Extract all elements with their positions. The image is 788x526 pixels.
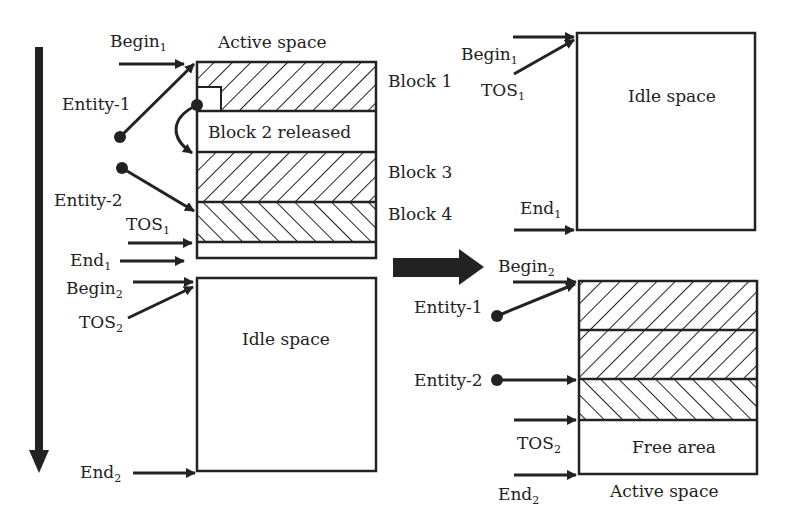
right-idle-space: Idle space bbox=[577, 33, 755, 230]
left-idle-space: Idle space bbox=[197, 278, 376, 471]
right-block-4 bbox=[579, 379, 757, 420]
right-begin2-label: Begin2 bbox=[498, 256, 555, 279]
right-tos1-label: TOS1 bbox=[481, 80, 525, 103]
right-tos2-label: TOS2 bbox=[517, 433, 561, 456]
block-3-label: Block 3 bbox=[388, 162, 452, 182]
left-begin2-label: Begin2 bbox=[66, 278, 123, 301]
left-active-space-label: Active space bbox=[217, 32, 326, 52]
left-end2-label: End2 bbox=[80, 462, 121, 485]
right-block-1 bbox=[579, 281, 757, 330]
right-active-space: Free area Active space bbox=[579, 281, 757, 501]
right-active-label: Active space bbox=[609, 481, 718, 501]
right-block-3 bbox=[579, 330, 757, 379]
left-active-space: Active space Block 2 released Block 1 Bl… bbox=[197, 32, 452, 258]
left-pointers: Begin1 Entity-1 Entity-2 TOS1 End1 Begin… bbox=[54, 31, 203, 485]
right-entity1-label: Entity-1 bbox=[414, 297, 483, 317]
block-1-label: Block 1 bbox=[388, 71, 452, 91]
memory-compaction-diagram: Active space Block 2 released Block 1 Bl… bbox=[0, 0, 788, 526]
time-axis-arrow bbox=[29, 47, 49, 473]
block-4 bbox=[197, 202, 376, 242]
left-tos1-label: TOS1 bbox=[126, 214, 170, 237]
left-entity1-label: Entity-1 bbox=[62, 94, 131, 114]
left-entity2-label: Entity-2 bbox=[54, 190, 123, 210]
block-2-label: Block 2 released bbox=[208, 122, 351, 142]
transition-arrow bbox=[393, 249, 484, 285]
right-free-label: Free area bbox=[632, 437, 716, 457]
right-idle-label: Idle space bbox=[628, 86, 716, 106]
right-entity2-label: Entity-2 bbox=[414, 370, 483, 390]
left-idle-label: Idle space bbox=[242, 329, 330, 349]
left-begin1-label: Begin1 bbox=[110, 31, 167, 54]
right-begin1-label: Begin1 bbox=[461, 44, 518, 67]
left-end1-label: End1 bbox=[70, 250, 111, 273]
left-tos2-label: TOS2 bbox=[79, 312, 123, 335]
block-1 bbox=[197, 62, 376, 111]
left-free-strip bbox=[197, 242, 376, 258]
right-end1-label: End1 bbox=[520, 198, 561, 221]
right-end2-label: End2 bbox=[498, 484, 539, 507]
relocation-curve-arrow bbox=[176, 105, 197, 153]
block-4-label: Block 4 bbox=[388, 204, 452, 224]
block-3 bbox=[197, 152, 376, 202]
